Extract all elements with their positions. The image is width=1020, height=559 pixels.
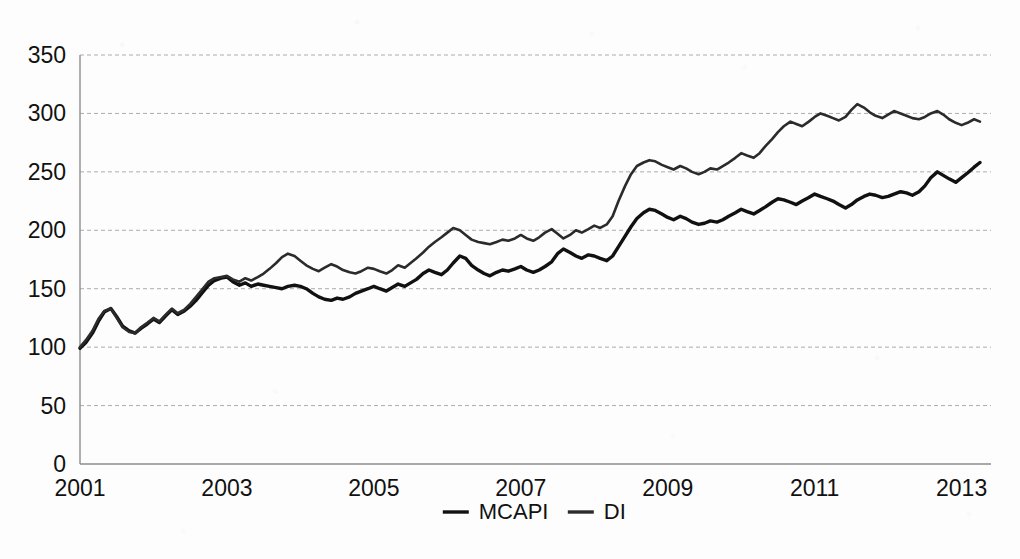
y-axis-tick-labels: 050100150200250300350: [28, 42, 66, 477]
x-tick-label-2009: 2009: [642, 475, 693, 501]
x-tick-label-2007: 2007: [495, 475, 546, 501]
x-axis-tick-labels: 2001200320052007200920112013: [54, 475, 987, 501]
x-tick-label-2001: 2001: [54, 475, 105, 501]
y-tick-label-200: 200: [28, 217, 66, 243]
series-line-mcapi: [80, 163, 980, 349]
y-tick-label-350: 350: [28, 42, 66, 68]
y-tick-label-150: 150: [28, 276, 66, 302]
x-tick-label-2013: 2013: [936, 475, 987, 501]
data-series: [80, 104, 980, 348]
y-tick-label-300: 300: [28, 100, 66, 126]
y-tick-label-250: 250: [28, 159, 66, 185]
x-tick-label-2011: 2011: [790, 475, 839, 501]
y-tick-label-0: 0: [53, 451, 66, 477]
chart-legend: MCAPIDI: [443, 499, 626, 524]
x-tick-label-2005: 2005: [348, 475, 399, 501]
y-tick-label-50: 50: [40, 393, 66, 419]
legend-label-mcapi: MCAPI: [479, 499, 549, 524]
line-chart: 050100150200250300350 200120032005200720…: [0, 0, 1020, 559]
legend-label-di: DI: [604, 499, 626, 524]
y-tick-label-100: 100: [28, 334, 66, 360]
series-line-di: [80, 104, 980, 347]
axes: [80, 55, 991, 464]
chart-page: 050100150200250300350 200120032005200720…: [0, 0, 1020, 559]
x-tick-label-2003: 2003: [201, 475, 252, 501]
